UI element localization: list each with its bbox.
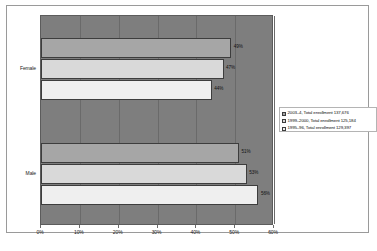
category-label-male: Male (7, 170, 36, 176)
chart-frame: 49%47%44%51%53%56% 2003–4, Total enrollm… (6, 5, 369, 233)
x-tick-mark (273, 225, 274, 228)
x-tick-label: 20% (106, 229, 130, 235)
legend-item: 1995–96, Total enrollment 129,397 (282, 125, 374, 132)
x-tick-label: 50% (222, 229, 246, 235)
category-label-female: Female (7, 65, 36, 71)
legend-label-1995-96: 1995–96, Total enrollment 129,397 (288, 126, 352, 130)
bar (41, 143, 239, 163)
bar (41, 59, 224, 79)
bar (41, 164, 247, 184)
bar-value-label: 47% (226, 66, 235, 71)
x-tick-mark (157, 225, 158, 228)
x-tick-mark (234, 225, 235, 228)
bar (41, 80, 212, 100)
legend-swatch-1995-96 (282, 127, 286, 131)
legend-item: 2003–4, Total enrollment 137,676 (282, 110, 374, 117)
x-tick-label: 30% (145, 229, 169, 235)
legend-label-2003-4: 2003–4, Total enrollment 137,676 (288, 111, 349, 115)
bar-value-label: 49% (234, 45, 243, 50)
x-tick-mark (79, 225, 80, 228)
x-tick-label: 10% (67, 229, 91, 235)
bar-value-label: 44% (214, 87, 223, 92)
bar (41, 38, 231, 58)
x-tick-mark (195, 225, 196, 228)
bar-value-label: 53% (249, 171, 258, 176)
x-tick-mark (118, 225, 119, 228)
x-tick-label: 60% (261, 229, 285, 235)
legend-item: 1999–2000, Total enrollment 125,184 (282, 118, 374, 125)
x-tick-label: 40% (183, 229, 207, 235)
gridline (274, 16, 275, 224)
legend-swatch-1999-2000 (282, 119, 286, 123)
bar-value-label: 56% (261, 192, 270, 197)
legend-swatch-2003-4 (282, 112, 286, 116)
bar (41, 185, 258, 205)
x-tick-mark (40, 225, 41, 228)
legend-label-1999-2000: 1999–2000, Total enrollment 125,184 (288, 119, 356, 123)
chart-legend: 2003–4, Total enrollment 137,676 1999–20… (279, 107, 377, 132)
plot-area: 49%47%44%51%53%56% (40, 15, 273, 225)
bar-value-label: 51% (242, 150, 251, 155)
x-tick-label: 0% (28, 229, 52, 235)
